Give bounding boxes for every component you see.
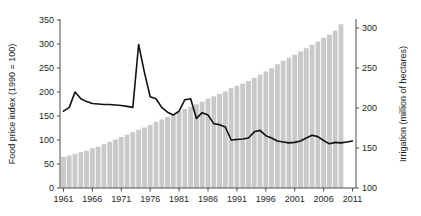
irrigation-bar (165, 117, 170, 188)
irrigation-bar (269, 68, 274, 188)
right-axis-tick-label: 250 (362, 63, 377, 73)
irrigation-bar (171, 114, 176, 188)
right-axis-tick-label: 200 (362, 103, 377, 113)
chart-figure: 050100150200250300350 100150200250300 19… (0, 0, 421, 216)
irrigation-bar (309, 45, 314, 188)
irrigation-bar (130, 132, 135, 188)
irrigation-bar (188, 106, 193, 188)
left-axis-tick-label: 200 (39, 87, 54, 97)
bottom-axis: 1961196619711976198119861991199620012006… (53, 188, 362, 204)
x-axis-tick-label: 1961 (53, 194, 73, 204)
irrigation-bar (228, 88, 233, 188)
irrigation-bar (315, 42, 320, 188)
irrigation-bar (90, 148, 95, 188)
x-axis-tick-label: 1991 (227, 194, 247, 204)
irrigation-bar (159, 119, 164, 188)
x-axis-tick-label: 1976 (140, 194, 160, 204)
irrigation-bar (124, 134, 129, 188)
left-axis: 050100150200250300350 (39, 15, 60, 193)
left-axis-tick-label: 0 (49, 183, 54, 193)
irrigation-bar (107, 142, 112, 188)
irrigation-bar (67, 155, 72, 188)
left-axis-tick-label: 250 (39, 63, 54, 73)
irrigation-bar (96, 146, 101, 188)
right-axis-tick-label: 100 (362, 183, 377, 193)
irrigation-bar (327, 34, 332, 188)
right-axis-title: Irrigation (million of hectares) (398, 46, 408, 162)
irrigation-bar (101, 144, 106, 188)
left-axis-tick-label: 50 (44, 159, 54, 169)
irrigation-bar (142, 127, 147, 188)
left-axis-title: Food price index (1990 = 100) (7, 44, 17, 164)
left-axis-tick-label: 100 (39, 135, 54, 145)
irrigation-bar (223, 91, 228, 188)
irrigation-bar (321, 38, 326, 188)
irrigation-bar (281, 61, 286, 188)
irrigation-bar (240, 83, 245, 188)
right-axis-tick-label: 300 (362, 23, 377, 33)
irrigation-bar (263, 71, 268, 188)
irrigation-bar (78, 152, 83, 188)
irrigation-bar (113, 139, 118, 188)
irrigation-bar (286, 58, 291, 188)
x-axis-tick-label: 1996 (256, 194, 276, 204)
right-axis-tick-label: 150 (362, 143, 377, 153)
x-axis-tick-label: 1966 (82, 194, 102, 204)
irrigation-bar (246, 81, 251, 188)
irrigation-bar (292, 54, 297, 188)
irrigation-bar (136, 130, 141, 188)
irrigation-bar (217, 94, 222, 188)
bars-layer (61, 24, 344, 188)
irrigation-bar (119, 137, 124, 188)
irrigation-bar (234, 86, 239, 188)
chart-canvas: 050100150200250300350 100150200250300 19… (0, 0, 421, 216)
irrigation-bar (211, 96, 216, 188)
right-axis: 100150200250300 (356, 19, 377, 193)
irrigation-bar (205, 98, 210, 188)
irrigation-bar (182, 109, 187, 188)
irrigation-bar (153, 122, 158, 188)
x-axis-tick-label: 2001 (285, 194, 305, 204)
left-axis-tick-label: 150 (39, 111, 54, 121)
irrigation-bar (72, 154, 77, 188)
irrigation-bar (61, 157, 66, 188)
irrigation-bar (84, 150, 89, 188)
x-axis-tick-label: 1986 (198, 194, 218, 204)
irrigation-bar (176, 111, 181, 188)
irrigation-bar (148, 125, 153, 188)
irrigation-bar (333, 30, 338, 188)
x-axis-tick-label: 1981 (169, 194, 189, 204)
irrigation-bar (275, 64, 280, 188)
x-axis-tick-label: 2006 (314, 194, 334, 204)
left-axis-tick-label: 350 (39, 15, 54, 25)
left-axis-tick-label: 300 (39, 39, 54, 49)
irrigation-bar (304, 48, 309, 188)
x-axis-tick-label: 1971 (111, 194, 131, 204)
irrigation-bar (298, 51, 303, 188)
x-axis-tick-label: 2011 (343, 194, 362, 204)
irrigation-bar (338, 24, 343, 188)
